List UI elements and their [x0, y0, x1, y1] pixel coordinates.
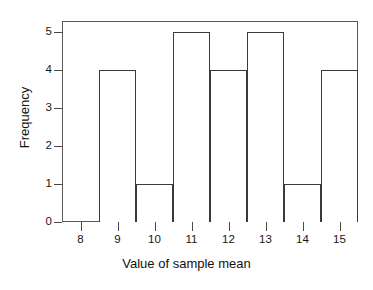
x-axis-tick-label: 11	[172, 233, 212, 245]
histogram-bar	[173, 32, 210, 222]
x-axis-tick	[81, 222, 82, 231]
x-axis-tick	[266, 222, 267, 231]
x-axis-title: Value of sample mean	[0, 256, 373, 271]
x-axis-tick-label: 13	[246, 233, 286, 245]
y-axis-tick	[54, 108, 62, 109]
histogram-bar	[99, 70, 136, 222]
y-axis-tick	[54, 146, 62, 147]
x-axis-tick-label: 8	[61, 233, 101, 245]
histogram-bar	[321, 70, 358, 222]
x-axis-tick	[303, 222, 304, 231]
histogram-figure: 012345 89101112131415 Frequency Value of…	[0, 0, 373, 290]
y-axis-tick	[54, 70, 62, 71]
histogram-bar	[210, 70, 247, 222]
y-axis-tick	[54, 32, 62, 33]
y-axis-tick-label: 5	[26, 26, 52, 38]
x-axis-tick-label: 12	[209, 233, 249, 245]
x-axis-tick-label: 15	[320, 233, 360, 245]
y-axis-tick	[54, 222, 62, 223]
x-axis-tick-label: 9	[98, 233, 138, 245]
bars-layer	[62, 21, 358, 222]
x-axis-tick	[118, 222, 119, 231]
x-axis-tick-label: 10	[135, 233, 175, 245]
x-axis-tick	[340, 222, 341, 231]
x-axis-tick	[155, 222, 156, 231]
x-axis-tick-label: 14	[283, 233, 323, 245]
y-axis-tick-label: 0	[26, 216, 52, 228]
x-axis-tick	[229, 222, 230, 231]
histogram-bar	[284, 184, 321, 222]
y-axis-tick	[54, 184, 62, 185]
x-axis-tick	[192, 222, 193, 231]
histogram-bar	[247, 32, 284, 222]
y-axis-title: Frequency	[17, 48, 32, 188]
histogram-bar	[136, 184, 173, 222]
